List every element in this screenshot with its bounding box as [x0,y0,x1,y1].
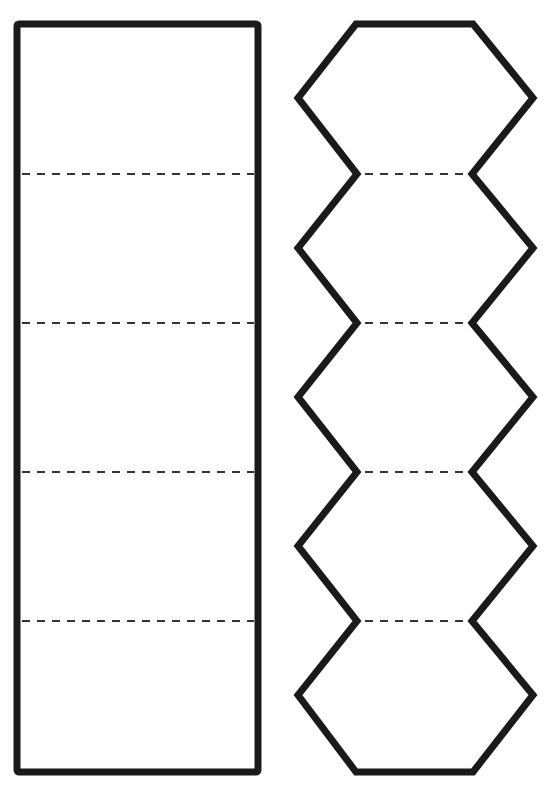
hexagon-chain-outline [298,24,533,772]
rectangle-strip-template [17,24,258,772]
template-canvas [0,0,555,785]
rectangle-outline [17,24,258,772]
hexagon-chain-template [298,24,533,772]
